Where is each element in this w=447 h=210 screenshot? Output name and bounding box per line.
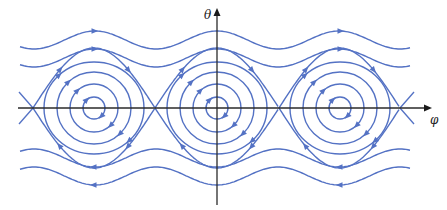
separatrix-stub [19,108,33,124]
separatrix-stub [400,92,414,108]
lower-running-curve-1-arrow-icon [336,182,343,188]
upper-running-curve-0 [20,31,410,49]
phase-portrait-diagram: φ θ [0,0,447,210]
separatrix-stub [400,108,414,124]
separatrix-top-2 [279,48,399,108]
upper-running-curve-1-arrow-icon [337,46,344,52]
upper-running-curve-0-arrow-icon [337,28,344,34]
theta-axis-label: θ [204,8,212,22]
lower-running-curve-0-arrow-icon [336,164,343,170]
separatrix-bottom-2 [279,108,399,168]
lower-running-curve-1-arrow-icon [90,182,97,188]
separatrix-top-0 [33,48,155,108]
upper-running-curve-0-arrow-icon [91,28,98,34]
phi-axis-label: φ [430,113,439,127]
lower-running-curve-0-arrow-icon [90,164,97,170]
lower-running-curve-1 [20,167,410,185]
separatrix-bottom-0 [33,108,155,168]
theta-axis-arrow-icon [214,8,221,16]
phi-axis-arrow-icon [424,105,432,112]
upper-running-curve-1-arrow-icon [91,46,98,52]
separatrix-stub [19,92,33,108]
